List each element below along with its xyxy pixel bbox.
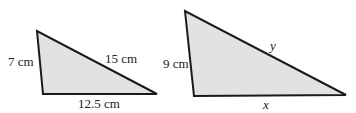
triangle-2-base-label: x [262, 97, 269, 112]
similar-triangles-diagram: 7 cm 15 cm 12.5 cm 9 cm y x [0, 0, 356, 113]
triangle-1-shape [37, 31, 157, 94]
triangle-2-left-side-label: 9 cm [163, 56, 189, 71]
triangle-2-shape [185, 11, 346, 96]
triangle-1: 7 cm 15 cm 12.5 cm [8, 31, 157, 111]
triangle-2-hypotenuse-label: y [268, 38, 276, 53]
triangle-2: 9 cm y x [163, 11, 346, 112]
triangle-1-hypotenuse-label: 15 cm [105, 51, 137, 66]
triangle-1-left-side-label: 7 cm [8, 54, 34, 69]
triangle-1-base-label: 12.5 cm [78, 96, 120, 111]
